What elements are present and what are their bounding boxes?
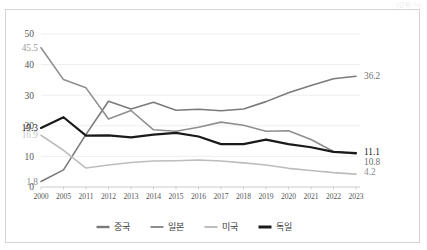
x-axis-tick-label: 2019 [258, 192, 273, 201]
x-axis-tick-label: 2018 [236, 192, 251, 201]
x-axis-tick-label: 2021 [303, 192, 318, 201]
end-value-label-독일: 11.1 [364, 147, 380, 157]
start-value-label-중국: 1.8 [26, 177, 38, 187]
y-axis-tick-label: 10 [25, 152, 35, 162]
x-axis-tick-label: 2020 [281, 192, 296, 201]
legend-item-일본[interactable]: 일본 [151, 222, 184, 232]
series-line-독일 [41, 117, 356, 153]
legend-label-일본: 일본 [168, 222, 184, 232]
x-axis-tick-label: 2012 [101, 192, 116, 201]
x-axis-tick-label: 2011 [79, 192, 94, 201]
series-line-미국 [41, 135, 356, 174]
y-axis-tick-label: 50 [25, 29, 35, 39]
legend-label-중국: 중국 [114, 222, 130, 232]
x-axis-tick-label: 2022 [326, 192, 341, 201]
x-axis-tick-label: 2017 [213, 192, 228, 201]
y-axis-tick-label: 40 [25, 60, 35, 70]
legend-label-독일: 독일 [276, 222, 292, 232]
end-value-label-일본: 10.8 [364, 157, 381, 167]
x-axis-tick-label: 2015 [168, 192, 183, 201]
legend-label-미국: 미국 [222, 222, 238, 232]
x-axis-tick-label: 2013 [123, 192, 138, 201]
chart-svg: 0102030405020002005201120122013201420152… [0, 0, 427, 250]
start-value-label-일본: 45.5 [22, 43, 39, 53]
x-axis-tick-label: 2014 [146, 192, 161, 201]
start-value-label-미국: 16.9 [22, 130, 39, 140]
end-value-label-미국: 4.2 [364, 167, 376, 177]
line-chart: 0102030405020002005201120122013201420152… [0, 0, 427, 250]
y-axis-tick-label: 30 [25, 91, 35, 101]
legend-item-미국[interactable]: 미국 [205, 222, 238, 232]
x-axis-tick-label: 2023 [348, 192, 363, 201]
legend-item-독일[interactable]: 독일 [259, 222, 292, 232]
legend-item-중국[interactable]: 중국 [97, 222, 130, 232]
end-value-label-중국: 36.2 [364, 71, 381, 81]
series-line-일본 [41, 48, 356, 154]
x-axis-tick-label: 2016 [191, 192, 206, 201]
x-axis-tick-label: 2000 [33, 192, 48, 201]
x-axis-tick-label: 2005 [56, 192, 71, 201]
